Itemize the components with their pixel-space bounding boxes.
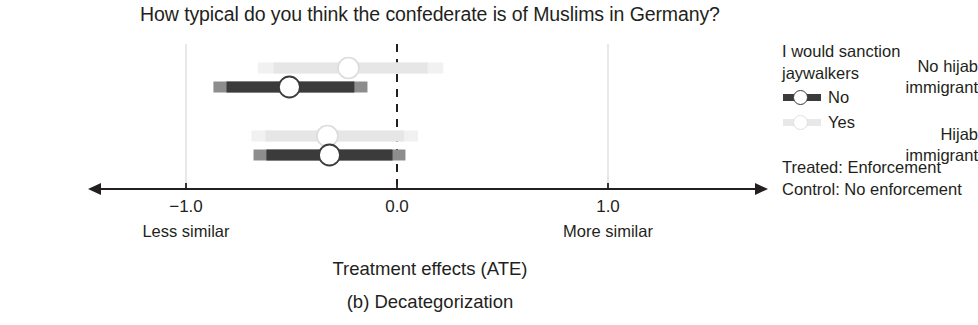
point-estimate-yes-row0 xyxy=(338,58,359,79)
legend-marker-yes-icon xyxy=(782,113,822,131)
panel-caption: (b) Decategorization xyxy=(0,291,860,313)
ci-outer-yes-row0 xyxy=(258,63,444,74)
x-tick-label-minus-1: −1.0 xyxy=(141,197,231,217)
ci-outer-no-row1 xyxy=(254,150,406,161)
legend-title-line1: I would sanction xyxy=(782,40,978,62)
axis-end-label-less-similar: Less similar xyxy=(106,222,266,241)
point-estimate-no-row0 xyxy=(279,77,300,98)
legend-title-line2: jaywalkers xyxy=(782,62,978,84)
figure-panel: How typical do you think the confederate… xyxy=(0,0,978,325)
chart-title: How typical do you think the confederate… xyxy=(0,3,860,26)
point-estimate-yes-row1 xyxy=(317,126,338,147)
legend-label-no: No xyxy=(822,86,849,108)
legend-label-yes: Yes xyxy=(822,111,855,133)
note-control: Control: No enforcement xyxy=(782,180,962,199)
ci-outer-no-row0 xyxy=(213,82,367,93)
ci-inner-yes-row0 xyxy=(274,63,428,74)
x-tick-label-1: 1.0 xyxy=(563,197,653,217)
legend: I would sanction jaywalkers No Yes xyxy=(782,40,978,134)
ci-inner-yes-row1 xyxy=(266,131,404,142)
x-axis-right-arrow-icon xyxy=(755,183,768,195)
axis-end-label-more-similar: More similar xyxy=(528,222,688,241)
ci-inner-no-row1 xyxy=(266,150,392,161)
note-treated: Treated: Enforcement xyxy=(782,158,941,177)
legend-item-no[interactable]: No xyxy=(782,85,978,109)
x-tick-label-0: 0.0 xyxy=(352,197,442,217)
x-axis-title: Treatment effects (ATE) xyxy=(0,258,860,280)
point-estimate-no-row1 xyxy=(319,145,340,166)
legend-item-yes[interactable]: Yes xyxy=(782,110,978,134)
ci-outer-yes-row1 xyxy=(251,131,418,142)
legend-marker-no-icon xyxy=(782,88,822,106)
x-axis-left-arrow-icon xyxy=(88,183,101,195)
ci-inner-no-row0 xyxy=(227,82,355,93)
legend-title: I would sanction jaywalkers xyxy=(782,40,978,84)
